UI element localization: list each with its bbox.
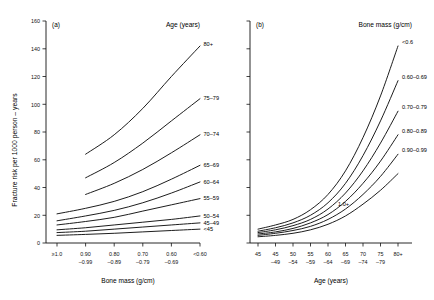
panel-a-xtick-bottom-1: –0.99 bbox=[79, 259, 93, 265]
curve-label-60-64: 60–64 bbox=[204, 179, 220, 185]
curve-label-80: 80+ bbox=[204, 41, 214, 47]
fracture-risk-figure: (a) Fracture risk per 1000 person – year… bbox=[0, 0, 434, 300]
panel-b-xtick-top-3: 55 bbox=[308, 251, 314, 257]
panel-a-ytick-160: 160 bbox=[31, 18, 40, 24]
panel-a-ytick-60: 60 bbox=[34, 157, 40, 163]
panel-a-ytick-80: 80 bbox=[34, 129, 40, 135]
curve-45 bbox=[57, 229, 200, 235]
panel-a-xtick-top-1: 0.90 bbox=[80, 251, 91, 257]
curve-label-45: <45 bbox=[204, 226, 214, 232]
panel-a-x-axis-title: Bone mass (g/cm) bbox=[101, 277, 155, 285]
panel-a-xtick-top-0: ≥1.0 bbox=[52, 251, 62, 257]
panel-a-y-axis-title: Fracture risk per 1000 person – years bbox=[11, 93, 19, 207]
panel-a-xtick-bottom-3: –0.79 bbox=[136, 259, 150, 265]
panel-a-x-ticks: ≥1.0 0.90 –0.99 0.80 –0.89 0.70 –0.79 0.… bbox=[52, 243, 207, 265]
panel-a-tag: (a) bbox=[52, 21, 60, 29]
panel-a-legend-title: Age (years) bbox=[166, 21, 200, 29]
panel-b: (b) 4545–4950–5455–5960–6465–6970–7475–7… bbox=[247, 21, 427, 285]
panel-b-y-ticks bbox=[247, 21, 251, 243]
panel-a-xtick-top-3: 0.70 bbox=[138, 251, 149, 257]
panel-b-x-axis-title: Age (years) bbox=[314, 277, 348, 285]
panel-b-xtick-top-0: 45 bbox=[255, 251, 261, 257]
curve-label-55-59: 55–59 bbox=[204, 195, 220, 201]
curve-label-75-79: 75–79 bbox=[204, 95, 220, 101]
panel-a-ytick-140: 140 bbox=[31, 46, 40, 52]
curve-label-50-54: 50–54 bbox=[204, 213, 220, 219]
panel-a-ytick-40: 40 bbox=[34, 185, 40, 191]
curve-label-45-49: 45–49 bbox=[204, 220, 220, 226]
curve-55-59 bbox=[57, 199, 200, 225]
panel-a-curve-labels: 80+75–7970–7465–6960–6455–5950–5445–49<4… bbox=[204, 41, 220, 232]
panel-a-xtick-top-4: 0.60 bbox=[166, 251, 177, 257]
curve-label-0-90-0-99: 0.90–0.99 bbox=[402, 147, 427, 153]
panel-b-legend-title: Bone mass (g/cm) bbox=[359, 21, 413, 29]
panel-a-ytick-100: 100 bbox=[31, 102, 40, 108]
panel-b-curves bbox=[258, 46, 398, 237]
curve-label-70-74: 70–74 bbox=[204, 131, 220, 137]
panel-b-xtick-bottom-5: –69 bbox=[341, 259, 350, 265]
panel-b-xtick-top-2: 50 bbox=[290, 251, 296, 257]
panel-b-xtick-top-1: 45 bbox=[273, 251, 279, 257]
panel-b-curve-labels: <0.60.60–0.690.70–0.790.80–0.890.90–0.99… bbox=[338, 39, 427, 207]
panel-b-xtick-bottom-7: –79 bbox=[376, 259, 385, 265]
curve-70-74 bbox=[86, 135, 200, 195]
curve-45-49 bbox=[57, 223, 200, 233]
panel-a-ytick-0: 0 bbox=[37, 240, 40, 246]
panel-a-y-ticks: 0 20 40 60 80 100 120 140 160 bbox=[31, 18, 46, 246]
panel-a-xtick-bottom-2: –0.89 bbox=[107, 259, 121, 265]
curve-0-6 bbox=[258, 46, 398, 229]
curve-label-1-0: 1.0+ bbox=[338, 201, 349, 207]
panel-b-xtick-top-4: 60 bbox=[325, 251, 331, 257]
panel-a-curves bbox=[57, 46, 200, 235]
panel-a-xtick-top-5: <0.60 bbox=[193, 251, 207, 257]
panel-b-xtick-top-6: 70 bbox=[360, 251, 366, 257]
panel-b-x-ticks: 4545–4950–5455–5960–6465–6970–7475–7980+ bbox=[255, 243, 403, 265]
curve-60-64 bbox=[57, 182, 200, 221]
curve-label-0-70-0-79: 0.70–0.79 bbox=[402, 104, 427, 110]
panel-b-xtick-bottom-6: –74 bbox=[359, 259, 368, 265]
panel-b-tag: (b) bbox=[256, 21, 264, 29]
panel-b-xtick-bottom-4: –64 bbox=[324, 259, 333, 265]
panel-b-xtick-bottom-2: –54 bbox=[289, 259, 298, 265]
curve-80 bbox=[86, 46, 200, 154]
curve-label-0-6: <0.6 bbox=[402, 39, 413, 45]
panel-b-xtick-bottom-1: –49 bbox=[271, 259, 280, 265]
panel-b-xtick-top-7: 75 bbox=[378, 251, 384, 257]
panel-a-xtick-top-2: 0.80 bbox=[109, 251, 120, 257]
panel-a-ytick-20: 20 bbox=[34, 213, 40, 219]
figure-container: (a) Fracture risk per 1000 person – year… bbox=[0, 0, 434, 300]
curve-label-65-69: 65–69 bbox=[204, 162, 220, 168]
panel-a: (a) Fracture risk per 1000 person – year… bbox=[11, 18, 219, 285]
panel-b-xtick-top-5: 65 bbox=[343, 251, 349, 257]
panel-a-ytick-120: 120 bbox=[31, 74, 40, 80]
panel-a-xtick-bottom-4: –0.69 bbox=[165, 259, 179, 265]
curve-label-0-60-0-69: 0.60–0.69 bbox=[402, 74, 427, 80]
panel-b-xtick-top-8: 80+ bbox=[393, 251, 402, 257]
panel-b-xtick-bottom-3: –59 bbox=[306, 259, 315, 265]
curve-75-79 bbox=[86, 99, 200, 178]
curve-label-0-80-0-89: 0.80–0.89 bbox=[402, 128, 427, 134]
